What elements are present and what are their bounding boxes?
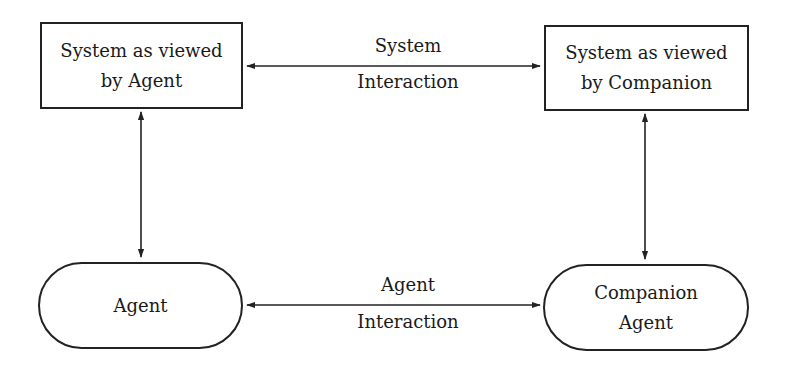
node-label-line1: Companion — [594, 278, 698, 308]
node-label-line2: Agent — [619, 308, 673, 338]
system-as-viewed-by-companion-box: System as viewed by Companion — [544, 25, 749, 111]
node-label-line2: by Companion — [581, 68, 712, 98]
agent-interaction-label-top: Agent — [328, 274, 488, 296]
node-label-line1: System as viewed — [60, 36, 222, 66]
node-label-line1: Agent — [114, 291, 168, 321]
companion-agent-node: Companion Agent — [543, 264, 749, 351]
agent-interaction-label-bottom: Interaction — [328, 311, 488, 333]
system-as-viewed-by-agent-box: System as viewed by Agent — [40, 22, 243, 109]
agent-node: Agent — [38, 262, 243, 349]
node-label-line1: System as viewed — [565, 38, 727, 68]
system-interaction-label-top: System — [328, 35, 488, 57]
system-interaction-label-bottom: Interaction — [328, 71, 488, 93]
node-label-line2: by Agent — [101, 66, 182, 96]
